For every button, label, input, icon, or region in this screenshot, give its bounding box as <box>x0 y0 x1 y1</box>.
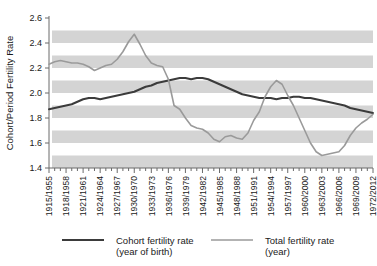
x-tick-label: 1927/1967 <box>112 176 122 216</box>
y-tick-label: 1.6 <box>29 138 42 148</box>
y-tick-label: 2.2 <box>29 63 42 73</box>
grid-band-3 <box>52 81 373 94</box>
legend-sublabel-1: (year) <box>265 246 290 257</box>
x-tick-label: 1951/1991 <box>249 176 259 216</box>
x-tick-label: 1915/1955 <box>44 176 54 216</box>
x-tick-label: 1954/1994 <box>266 176 276 216</box>
y-axis-title: Cohort/Period Fertility Rate <box>4 36 15 151</box>
chart-canvas: 1.41.61.82.02.22.42.6 1915/19551918/1958… <box>0 0 377 266</box>
x-tick-label: 1963/2003 <box>317 176 327 216</box>
fertility-rate-chart: 1.41.61.82.02.22.42.6 1915/19551918/1958… <box>0 0 377 266</box>
x-tick-label: 1957/1997 <box>283 176 293 216</box>
x-tick-label: 1939/1979 <box>181 176 191 216</box>
x-tick-label: 1972/2012 <box>368 176 377 216</box>
x-tick-label: 1960/2000 <box>300 176 310 216</box>
x-tick-label: 1921/1961 <box>78 176 88 216</box>
x-tick-label: 1945/1985 <box>215 176 225 216</box>
x-tick-label: 1948/1988 <box>232 176 242 216</box>
y-tick-label: 1.8 <box>29 113 42 123</box>
x-tick-label: 1936/1976 <box>164 176 174 216</box>
x-tick-label: 1966/2006 <box>334 176 344 216</box>
grid-band-5 <box>52 31 373 44</box>
x-tick-label: 1918/1958 <box>61 176 71 216</box>
y-tick-label: 2.6 <box>29 13 42 23</box>
y-tick-label: 2.0 <box>29 88 42 98</box>
legend-sublabel-0: (year of birth) <box>116 246 173 257</box>
grid-band-0 <box>52 156 373 169</box>
x-tick-label: 1969/2009 <box>351 176 361 216</box>
legend-label-1: Total fertility rate <box>265 235 334 246</box>
chart-legend: Cohort fertility rate(year of birth)Tota… <box>62 235 334 258</box>
legend-label-0: Cohort fertility rate <box>116 235 194 246</box>
x-tick-label: 1933/1973 <box>147 176 157 216</box>
x-axis-tick-labels: 1915/19551918/19581921/19611924/19641927… <box>44 176 377 216</box>
y-axis-tick-labels: 1.41.61.82.02.22.42.6 <box>29 13 42 173</box>
x-tick-label: 1942/1982 <box>198 176 208 216</box>
x-tick-label: 1924/1964 <box>95 176 105 216</box>
grid-band-4 <box>52 56 373 69</box>
x-tick-label: 1930/1970 <box>129 176 139 216</box>
y-tick-label: 1.4 <box>29 163 42 173</box>
grid-band-2 <box>52 106 373 119</box>
y-tick-label: 2.4 <box>29 38 42 48</box>
